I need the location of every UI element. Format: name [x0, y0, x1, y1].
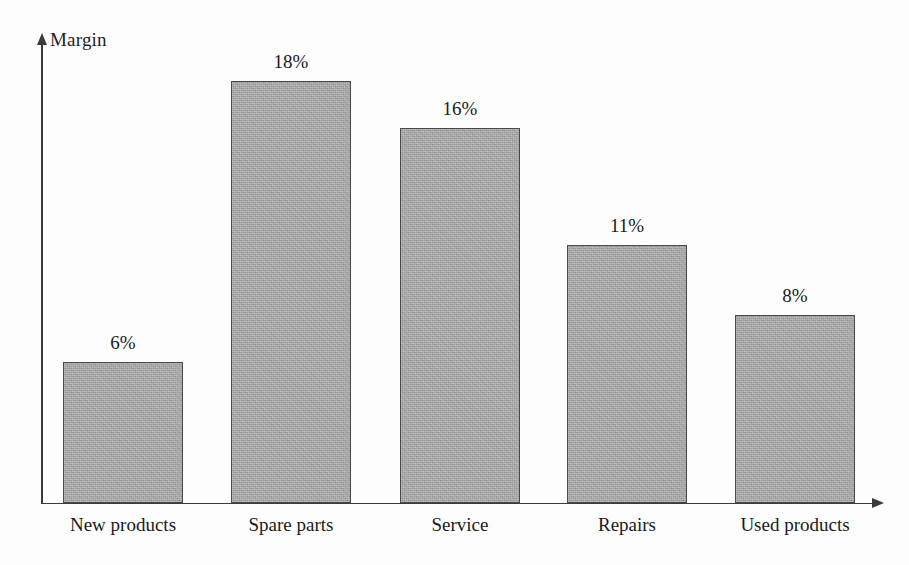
x-axis-label-repairs: Repairs [537, 514, 717, 536]
bar-value-label-service: 16% [400, 98, 520, 120]
bar-value-label-used-products: 8% [735, 285, 855, 307]
x-axis-label-new-products: New products [33, 514, 213, 536]
bar-service [400, 128, 520, 503]
bar-value-label-repairs: 11% [567, 215, 687, 237]
bar-new-products [63, 362, 183, 503]
bar-used-products [735, 315, 855, 503]
x-axis-label-spare-parts: Spare parts [201, 514, 381, 536]
bar-spare-parts [231, 81, 351, 503]
bar-value-label-spare-parts: 18% [231, 51, 351, 73]
x-axis-label-used-products: Used products [705, 514, 885, 536]
x-axis-label-service: Service [370, 514, 550, 536]
bar-chart-figure: Margin 6%New products18%Spare parts16%Se… [0, 0, 909, 565]
bar-value-label-new-products: 6% [63, 332, 183, 354]
bar-repairs [567, 245, 687, 503]
plot-area: 6%New products18%Spare parts16%Service11… [0, 0, 909, 565]
